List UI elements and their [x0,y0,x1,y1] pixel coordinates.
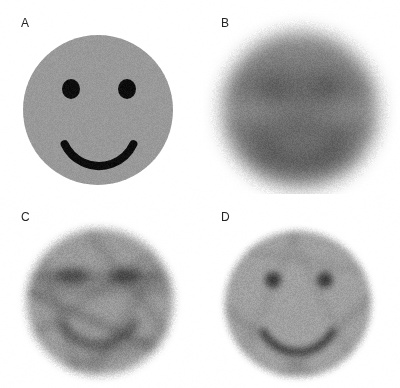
tomographic-reconstruction-figure: A B C D [0,0,400,388]
panel-d-image [200,194,400,388]
panel-b-label: B [221,17,229,29]
panel-a-label: A [21,17,29,29]
panel-d: D [200,194,400,388]
panel-b: B [200,0,400,194]
panel-a: A [0,0,200,194]
panel-a-image [0,0,200,194]
panel-b-image [200,0,400,194]
panel-c: C [0,194,200,388]
panel-c-label: C [21,211,30,223]
panel-d-label: D [221,211,230,223]
panel-c-image [0,194,200,388]
